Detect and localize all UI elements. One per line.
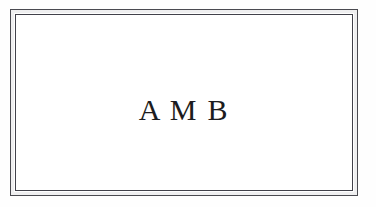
- monogram-text: A M B: [16, 95, 352, 125]
- bookplate-page: A M B: [0, 0, 376, 207]
- plate-field: A M B: [16, 15, 352, 190]
